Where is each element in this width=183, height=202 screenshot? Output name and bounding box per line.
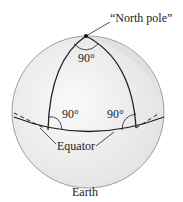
angle-top-label: 90° (78, 51, 95, 65)
earth-spherical-triangle-diagram: “North pole” 90° 90° 90° Equator Earth (0, 0, 183, 202)
angle-right-label: 90° (107, 107, 124, 121)
north-pole-label: “North pole” (110, 11, 172, 25)
earth-label: Earth (72, 185, 98, 199)
angle-left-label: 90° (62, 107, 79, 121)
north-pole-leader (86, 22, 110, 36)
equator-label: Equator (57, 139, 95, 153)
